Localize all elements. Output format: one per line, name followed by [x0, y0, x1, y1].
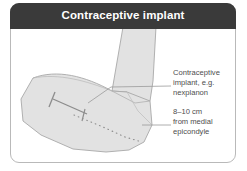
- contraceptive-implant-figure-card: Contraceptive implant Contraceptive: [10, 3, 236, 163]
- annotation-line: 8–10 cm: [173, 107, 235, 117]
- figure-title: Contraceptive implant: [62, 10, 185, 22]
- annotation-line: Contraceptive: [173, 68, 235, 78]
- annotation-distance-from-epicondyle: 8–10 cm from medial epicondyle: [173, 107, 235, 138]
- annotation-line: nexplanon: [173, 88, 235, 98]
- annotation-line: implant, e.g.: [173, 78, 235, 88]
- annotation-line: from medial: [173, 117, 235, 127]
- figure-illustration-area: Contraceptive implant, e.g. nexplanon 8–…: [11, 29, 235, 162]
- annotation-line: epicondyle: [173, 127, 235, 137]
- figure-header-bar: Contraceptive implant: [10, 3, 236, 29]
- annotation-contraceptive-implant: Contraceptive implant, e.g. nexplanon: [173, 68, 235, 99]
